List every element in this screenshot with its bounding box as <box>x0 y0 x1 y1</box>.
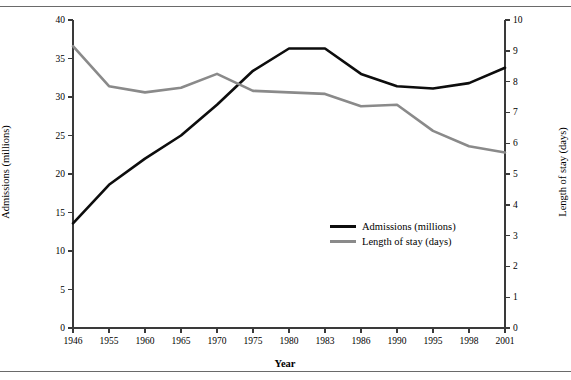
legend-label-length-of-stay: Length of stay (days) <box>362 236 452 247</box>
y-tick-label-left: 0 <box>60 323 65 333</box>
y-tick-label-right: 9 <box>513 46 518 56</box>
y-tick-label-right: 4 <box>513 200 518 210</box>
legend-label-admissions: Admissions (millions) <box>362 221 456 232</box>
x-tick-label: 1975 <box>244 336 263 346</box>
y-axis-right-title: Length of stay (days) <box>557 127 568 217</box>
axes-group <box>68 20 510 333</box>
x-tick-label: 1995 <box>424 336 443 346</box>
y-tick-label-left: 15 <box>56 208 66 218</box>
x-tick-label: 1965 <box>172 336 191 346</box>
x-tick-label: 1990 <box>388 336 407 346</box>
y-axis-left-title: Admissions (millions) <box>0 125 11 219</box>
x-tick-label: 1986 <box>352 336 371 346</box>
x-tick-label: 1946 <box>64 336 83 346</box>
x-axis-title: Year <box>275 358 296 369</box>
y-tick-label-right: 6 <box>513 138 518 148</box>
legend-item: Length of stay (days) <box>330 234 456 249</box>
legend-swatch-admissions <box>330 225 356 228</box>
line-chart-plot <box>0 0 571 380</box>
x-tick-label: 1960 <box>136 336 155 346</box>
legend-swatch-length-of-stay <box>330 240 356 243</box>
y-tick-label-right: 5 <box>513 169 518 179</box>
x-tick-label: 1998 <box>460 336 479 346</box>
y-tick-label-right: 10 <box>513 15 523 25</box>
series-line <box>73 46 505 152</box>
x-tick-label: 1983 <box>316 336 335 346</box>
x-tick-label: 1955 <box>100 336 119 346</box>
figure-container: 0510152025303540012345678910194619551960… <box>0 0 571 380</box>
y-tick-label-left: 25 <box>56 131 66 141</box>
series-group <box>73 46 505 223</box>
y-tick-label-left: 30 <box>56 92 66 102</box>
legend-item: Admissions (millions) <box>330 219 456 234</box>
x-tick-label: 1970 <box>208 336 227 346</box>
y-tick-label-left: 10 <box>56 246 66 256</box>
series-line <box>73 48 505 223</box>
y-tick-label-right: 0 <box>513 323 518 333</box>
y-tick-label-left: 40 <box>56 15 66 25</box>
y-tick-label-left: 35 <box>56 54 66 64</box>
chart-legend: Admissions (millions) Length of stay (da… <box>330 219 456 249</box>
y-tick-label-left: 5 <box>60 285 65 295</box>
y-tick-label-left: 20 <box>56 169 66 179</box>
y-tick-label-right: 8 <box>513 77 518 87</box>
x-tick-label: 1980 <box>280 336 299 346</box>
y-tick-label-right: 7 <box>513 107 518 117</box>
y-tick-label-right: 3 <box>513 231 518 241</box>
y-tick-label-right: 1 <box>513 292 518 302</box>
y-tick-label-right: 2 <box>513 261 518 271</box>
x-tick-label: 2001 <box>496 336 515 346</box>
